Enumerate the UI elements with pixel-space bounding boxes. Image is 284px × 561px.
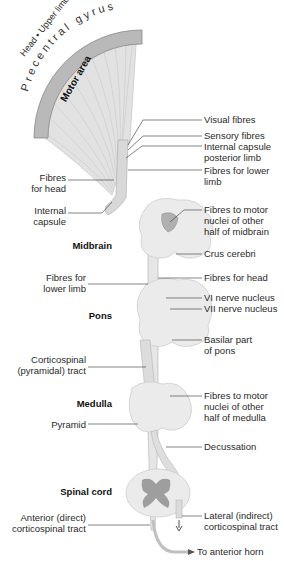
anterior-horn-path (153, 520, 190, 552)
region-medulla: Medulla (77, 398, 112, 409)
label-sensory-fibres: Sensory fibres (204, 130, 265, 141)
label-fibres-motor-midbrain: Fibres to motor nuclei of other half of … (204, 204, 269, 237)
region-spinal-cord: Spinal cord (60, 486, 112, 497)
label-basilar-part-pons: Basilar part of pons (204, 334, 252, 356)
region-midbrain: Midbrain (72, 240, 112, 251)
region-pons: Pons (89, 310, 112, 321)
label-vi-nerve-nucleus: VI nerve nucleus (204, 292, 275, 303)
label-fibres-lower-limb-top: Fibres for lower limb (204, 165, 269, 187)
label-anterior-horn: To anterior horn (197, 546, 264, 557)
medulla-shape (129, 382, 191, 432)
arrow-right-icon (188, 549, 195, 555)
label-fibres-head-right: Fibres for head (204, 272, 268, 283)
label-internal-capsule: Internal capsule (33, 205, 66, 227)
label-corticospinal-tract: Corticospinal (pyramidal) tract (17, 354, 86, 376)
label-lateral-corticospinal: Lateral (indirect) corticospinal tract (204, 510, 278, 532)
down-arrow-icon (176, 520, 182, 531)
pons-shape (137, 278, 212, 346)
label-visual-fibres: Visual fibres (204, 114, 256, 125)
label-fibres-motor-medulla: Fibres to motor nuclei of other half of … (204, 390, 268, 423)
label-vii-nerve-nucleus: VII nerve nucleus (204, 303, 277, 314)
label-decussation: Decussation (204, 441, 256, 452)
label-fibres-head-left: Fibres for head (31, 172, 66, 194)
label-anterior-corticospinal: Anterior (direct) corticospinal tract (12, 512, 86, 534)
lateral-tract-stub (176, 500, 182, 518)
label-crus-cerebri: Crus cerebri (204, 248, 256, 259)
label-pyramid: Pyramid (51, 419, 86, 430)
label-fibres-lower-limb-left: Fibres for lower limb (43, 272, 86, 294)
midbrain-shape (139, 198, 213, 258)
label-internal-capsule-posterior-limb: Internal capsule posterior limb (204, 141, 271, 163)
